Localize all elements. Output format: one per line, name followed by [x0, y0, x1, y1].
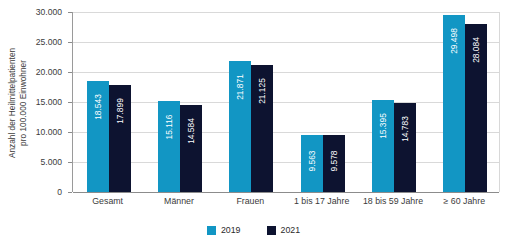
legend-swatch	[267, 226, 276, 235]
bar-value-label: 21.125	[257, 78, 267, 104]
bar-value-container: 28.084	[465, 28, 487, 72]
y-axis-tick-label: 30.000	[0, 7, 62, 17]
bar-value-label: 17.899	[115, 98, 125, 124]
bar-value-label: 15.116	[164, 115, 174, 140]
bar-group: 15.39514.783	[372, 12, 416, 192]
gridline	[73, 42, 499, 43]
bar[interactable]: 29.498	[443, 15, 465, 192]
bar-value-label: 15.395	[378, 113, 388, 139]
bar-value-label: 9.563	[307, 150, 317, 171]
bar-value-label: 28.084	[471, 37, 481, 63]
bar[interactable]: 21.871	[229, 61, 251, 192]
legend-label: 2021	[281, 225, 301, 235]
bar[interactable]: 14.584	[180, 105, 202, 193]
y-axis-tick-label: 20.000	[0, 67, 62, 77]
y-axis-tick-label: 0	[0, 187, 62, 197]
bar-value-label: 29.498	[449, 28, 459, 54]
bar-value-container: 15.116	[158, 105, 180, 149]
bar-value-label: 14.584	[186, 118, 196, 144]
bar-value-label: 14.783	[400, 117, 410, 143]
bar-value-label: 18.543	[93, 94, 103, 120]
legend-label: 2019	[221, 225, 241, 235]
bar-value-container: 21.871	[229, 65, 251, 109]
bar-value-container: 18.543	[87, 85, 109, 129]
legend: 20192021	[0, 222, 507, 238]
gridline	[73, 102, 499, 103]
legend-item[interactable]: 2021	[267, 225, 301, 235]
bar-group: 29.49828.084	[443, 12, 487, 192]
bar[interactable]: 28.084	[465, 24, 487, 193]
bar-chart: Anzahl der Heilmittelpatienten pro 100.0…	[0, 0, 507, 242]
legend-swatch	[207, 226, 216, 235]
bar[interactable]: 17.899	[109, 85, 131, 192]
bar-value-container: 14.584	[180, 109, 202, 153]
x-axis-tick-label: ≥ 60 Jahre	[444, 196, 486, 206]
x-axis-tick-label: 18 bis 59 Jahre	[363, 196, 423, 206]
bar-value-container: 14.783	[394, 107, 416, 151]
y-axis-tickmark	[68, 12, 72, 13]
bar-value-container: 17.899	[109, 89, 131, 133]
y-axis-tick-labels: 05.00010.00015.00020.00025.00030.000	[0, 12, 66, 192]
y-axis-tickmark	[68, 162, 72, 163]
y-axis-tickmark	[68, 192, 72, 193]
bar-group: 18.54317.899	[87, 12, 131, 192]
bar-value-container: 21.125	[251, 69, 273, 113]
y-axis-tick-label: 25.000	[0, 37, 62, 47]
bar-group: 21.87121.125	[229, 12, 273, 192]
bar[interactable]: 15.116	[158, 101, 180, 192]
bar-value-container: 15.395	[372, 104, 394, 148]
gridline	[73, 192, 499, 193]
x-axis-tick-label: Gesamt	[92, 196, 123, 206]
bar-value-container: 29.498	[443, 19, 465, 63]
gridline	[73, 162, 499, 163]
x-axis-tick-label: Frauen	[236, 196, 264, 206]
y-axis-tick-label: 10.000	[0, 127, 62, 137]
gridline	[73, 72, 499, 73]
bar-group: 15.11614.584	[158, 12, 202, 192]
legend-item[interactable]: 2019	[207, 225, 241, 235]
x-axis-tick-label: Männer	[164, 196, 194, 206]
bar[interactable]: 14.783	[394, 103, 416, 192]
bar-value-container: 9.563	[301, 139, 323, 183]
bar[interactable]: 21.125	[251, 65, 273, 192]
y-axis-tick-label: 5.000	[0, 157, 62, 167]
x-axis-tick-labels: GesamtMännerFrauen1 bis 17 Jahre18 bis 5…	[72, 196, 500, 212]
bar[interactable]: 9.563	[301, 135, 323, 192]
gridline	[73, 12, 499, 13]
bar-value-label: 21.871	[235, 74, 245, 100]
bar-value-label: 9.578	[329, 150, 339, 171]
y-axis-tick-label: 15.000	[0, 97, 62, 107]
y-axis-tickmark	[68, 72, 72, 73]
bar[interactable]: 15.395	[372, 100, 394, 192]
bar[interactable]: 9.578	[323, 135, 345, 192]
bar[interactable]: 18.543	[87, 81, 109, 192]
gridline	[73, 132, 499, 133]
y-axis-tickmark	[68, 132, 72, 133]
plot-area: 18.54317.89915.11614.58421.87121.1259.56…	[72, 12, 500, 192]
x-axis-tick-label: 1 bis 17 Jahre	[294, 196, 349, 206]
y-axis-tickmark	[68, 102, 72, 103]
bar-value-container: 9.578	[323, 139, 345, 183]
y-axis-tickmark	[68, 42, 72, 43]
bar-group: 9.5639.578	[301, 12, 345, 192]
